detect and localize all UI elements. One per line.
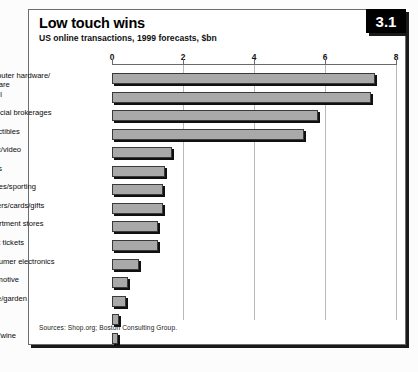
bar-row[interactable]: Clothes/sporting xyxy=(112,182,396,201)
bar-category-label: Food/wine xyxy=(0,331,101,340)
bar-category-label: Event tickets xyxy=(0,238,101,247)
bar-category-label: Consumer electronics xyxy=(0,257,101,266)
bar-row[interactable]: Automotive xyxy=(112,275,396,294)
bar-category-label: Flowers/cards/gifts xyxy=(0,201,101,210)
bar-category-label: Books xyxy=(0,164,101,173)
bar-row[interactable]: Computer hardware/ software xyxy=(112,71,396,90)
bar-row[interactable]: Flowers/cards/gifts xyxy=(112,201,396,220)
bar-category-label: Department stores xyxy=(0,219,101,228)
bar-row[interactable]: Books xyxy=(112,164,396,183)
bar-category-label: Home/garden xyxy=(0,294,101,303)
page-title: Low touch wins xyxy=(39,15,145,31)
figure-frame: 3.1 Low touch wins US online transaction… xyxy=(28,9,406,345)
bar-row[interactable]: Financial brokerages xyxy=(112,108,396,127)
bar-row[interactable]: Department stores xyxy=(112,219,396,238)
bar-row[interactable]: Home/garden xyxy=(112,294,396,313)
x-axis-tick-mark xyxy=(254,59,255,65)
x-axis-tick-mark xyxy=(325,59,326,65)
bar-row[interactable]: Event tickets xyxy=(112,238,396,257)
figure-number-badge: 3.1 xyxy=(366,9,406,33)
bar-category-label: Travel xyxy=(0,90,101,99)
bar[interactable] xyxy=(112,221,158,232)
chart-subtitle: US online transactions, 1999 forecasts, … xyxy=(39,33,217,43)
bar[interactable] xyxy=(112,277,128,288)
bar[interactable] xyxy=(112,333,118,344)
x-axis-tick-mark xyxy=(183,59,184,65)
bar[interactable] xyxy=(112,92,371,103)
bar[interactable] xyxy=(112,166,165,177)
bar[interactable] xyxy=(112,147,172,158)
bar[interactable] xyxy=(112,203,163,214)
bar-category-label: Automotive xyxy=(0,275,101,284)
bar[interactable] xyxy=(112,259,139,270)
bar-category-label: Computer hardware/ software xyxy=(0,71,101,89)
bar-category-label: Toys xyxy=(0,312,101,321)
bar-category-label: Collectibles xyxy=(0,127,101,136)
bar-row[interactable]: Food/wine xyxy=(112,331,396,350)
bar-row[interactable]: Travel xyxy=(112,90,396,109)
gridline xyxy=(396,64,397,320)
x-axis-tick-mark xyxy=(396,59,397,65)
bar[interactable] xyxy=(112,240,158,251)
x-axis-tick-mark xyxy=(112,59,113,65)
bar-category-label: Clothes/sporting xyxy=(0,182,101,191)
bar[interactable] xyxy=(112,184,163,195)
bar[interactable] xyxy=(112,129,304,140)
bar[interactable] xyxy=(112,110,318,121)
bar-category-label: Music/video xyxy=(0,145,101,154)
bar[interactable] xyxy=(112,73,375,84)
sources-note: Sources: Shop.org; Boston Consulting Gro… xyxy=(39,324,177,331)
bar-row[interactable]: Collectibles xyxy=(112,127,396,146)
bar-row[interactable]: Music/video xyxy=(112,145,396,164)
plot-area: 02468 Computer hardware/ softwareTravelF… xyxy=(112,55,396,320)
bar-category-label: Financial brokerages xyxy=(0,108,101,117)
bar[interactable] xyxy=(112,296,126,307)
bar-row[interactable]: Consumer electronics xyxy=(112,257,396,276)
